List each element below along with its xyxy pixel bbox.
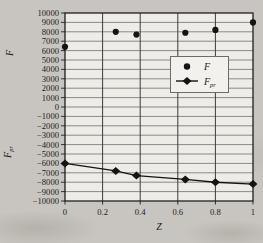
y-tick-label: 1000 [42,93,59,103]
x-tick-labels: 00.20.40.60.81 [63,207,255,217]
y-tick-label: 8000 [42,27,59,37]
data-point [212,27,218,33]
y-tick-label: −9000 [37,187,59,197]
x-tick-label: 0.4 [135,207,146,217]
y-tick-label: −3000 [37,130,59,140]
x-axis-title: Z [156,221,162,232]
y-tick-label: −7000 [37,168,59,178]
y-tick-label: −4000 [37,140,59,150]
y-tick-label: 2000 [42,83,59,93]
legend: F Fpr [171,57,229,93]
x-tick-label: 0.2 [97,207,108,217]
data-point [182,30,188,36]
y-tick-label: 3000 [42,74,59,84]
y-tick-label: 0 [55,102,59,112]
x-tick-label: 0 [63,207,67,217]
legend-box [171,57,229,93]
x-tick-label: 0.8 [210,207,221,217]
y-tick-labels: −10000−9000−8000−7000−6000−5000−4000−300… [33,8,59,206]
y-tick-label: −2000 [37,121,59,131]
y-tick-label: −1000 [37,111,59,121]
chart-canvas: −10000−9000−8000−7000−6000−5000−4000−300… [0,0,263,243]
data-point [133,32,139,38]
y-axis-title-lower: Fpr [2,146,14,159]
plot-area: −10000−9000−8000−7000−6000−5000−4000−300… [33,8,255,217]
y-tick-label: 4000 [42,64,59,74]
legend-circle-marker-icon [184,63,190,69]
y-tick-label: −8000 [37,177,59,187]
data-point [113,29,119,35]
y-tick-label: 10000 [38,8,59,18]
horizontal-gridlines [61,13,253,201]
legend-entry-f-label: F [203,61,211,72]
y-tick-label: −6000 [37,158,59,168]
y-tick-label: −10000 [33,196,59,206]
x-tick-label: 1 [251,207,255,217]
y-tick-label: −5000 [37,149,59,159]
y-axis-title-upper: F [4,49,15,57]
data-point [250,19,256,25]
chart-figure: −10000−9000−8000−7000−6000−5000−4000−300… [0,0,263,243]
data-point [62,44,68,50]
y-tick-label: 6000 [42,46,59,56]
y-tick-label: 7000 [42,36,59,46]
y-tick-label: 9000 [42,17,59,27]
x-tick-label: 0.6 [172,207,183,217]
y-tick-label: 5000 [42,55,59,65]
